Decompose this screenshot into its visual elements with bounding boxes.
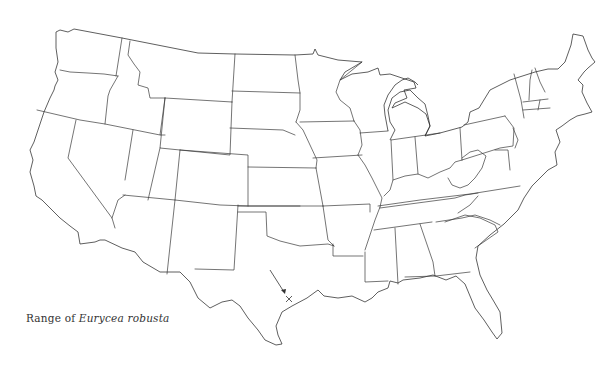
state-border-mt-nd-sd-wy [232,54,235,102]
state-border-il-in [384,140,393,196]
state-border-ar-la [333,244,363,256]
state-border-mo-ar [323,204,370,212]
state-border-ms-al [395,228,398,284]
state-border-in-oh [415,137,418,174]
state-border-ks-mo [316,168,323,206]
state-border-ia-il [354,121,362,155]
state-border-oh-pa [460,128,462,160]
state-border-ok-panhandle [238,212,334,246]
state-border-al-ga [420,224,435,276]
state-border-ga-nc [458,196,478,213]
state-border-wv-va [448,150,486,188]
state-border-wi-il [360,131,388,133]
state-border-ok-ar [323,206,334,246]
state-border-nv-az [112,195,125,218]
state-border-oh-ky-wv [393,160,462,180]
caption-species-name: Eurycea robusta [79,312,170,324]
arrowhead-icon [281,289,286,294]
x-mark-icon [286,296,292,302]
state-border-ct-ri [523,108,550,110]
state-border-wy [160,98,232,155]
state-border-vt-nh [529,70,532,100]
state-border-pa [462,116,514,160]
state-border-ar-ms [365,207,380,250]
state-border-ia-mo [313,155,362,158]
state-border-md-de-va [495,150,510,170]
state-border-mn-wi [336,62,362,121]
map-caption: Range of Eurycea robusta [26,312,170,324]
state-border-ny-vt-ma [514,74,524,118]
state-border-nd-mn [295,55,300,122]
state-border-ut [148,148,160,200]
state-outlines [30,29,595,345]
state-border-or-id [105,76,118,124]
state-border-ca-nv [68,120,115,228]
michigan-shoreline [384,78,430,140]
state-border-co [180,150,248,206]
state-border-sd-ne [230,128,295,135]
state-border-az-nm-line [123,195,300,206]
state-border-wa-or [60,70,118,76]
caption-prefix: Range of [26,312,75,324]
state-border-mn-ia [300,121,354,122]
state-border-nm-tx [195,205,238,270]
state-border-wa-id [116,38,122,76]
state-border-pa-ny [464,116,505,125]
state-border-nh-me [535,68,545,92]
state-border-ne-ks [248,167,316,168]
state-border-az-nm [167,200,175,274]
arrow-icon [270,270,284,292]
national-outline [30,29,595,345]
state-border-ky-tn [380,193,478,208]
state-border-ut-co [175,150,180,200]
state-border-ne-ia [296,122,317,168]
state-border-nd-sd [232,91,300,93]
state-border-la-ms [365,252,388,282]
state-border-tn-ms-al [374,222,432,230]
state-border-id-mt [128,41,165,98]
state-border-mt-wy [165,98,232,102]
state-border-nv-ut [125,130,133,180]
locality-marker [270,270,292,302]
state-border-nc-sc [436,215,500,225]
state-border-al-fl [405,272,470,277]
state-border-ma [523,99,548,102]
state-border-mo-il [358,155,382,207]
state-border-or-ca-nv [37,110,160,135]
state-border-tn-va-nc [378,186,520,206]
